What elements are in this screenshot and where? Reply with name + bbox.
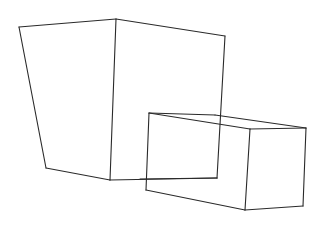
edge-line	[146, 190, 245, 210]
edge-line	[19, 27, 46, 168]
edge-line	[46, 168, 110, 180]
edge-line	[110, 19, 116, 180]
edge-line	[140, 178, 217, 179]
edge-line	[116, 19, 225, 36]
edge-line	[149, 113, 250, 129]
edge-line	[250, 128, 306, 129]
box-sketch	[0, 0, 323, 227]
sketch-canvas	[0, 0, 323, 227]
small-box	[140, 113, 306, 210]
large-box	[19, 19, 225, 180]
edge-line	[245, 129, 250, 210]
edge-line	[19, 19, 116, 27]
edge-line	[245, 206, 303, 210]
edge-line	[303, 128, 306, 206]
edge-line	[217, 36, 225, 178]
